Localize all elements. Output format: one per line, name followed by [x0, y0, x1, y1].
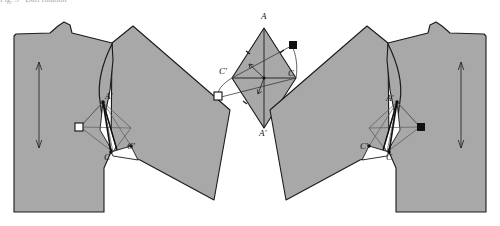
- left-bodice-shape: [14, 22, 113, 212]
- center-label-c-prime: C': [219, 67, 227, 76]
- left-white-square-marker: [75, 123, 83, 131]
- right-bodice-shape: [387, 22, 486, 212]
- center-pivot-dot: [263, 77, 266, 80]
- right-pattern-piece: [270, 22, 486, 212]
- left-pattern-piece: [14, 22, 230, 212]
- right-label-a-prime: A': [386, 94, 393, 103]
- pattern-drawing: [0, 0, 500, 226]
- center-label-a: A: [261, 12, 267, 21]
- right-black-square-marker: [417, 123, 425, 131]
- right-notch-dot-a: [395, 100, 399, 104]
- left-label-a-prime: A': [105, 92, 112, 101]
- center-label-c: C: [288, 69, 294, 78]
- left-sleeve-shape: [111, 26, 230, 200]
- right-label-c: C: [386, 153, 392, 162]
- center-black-square-marker: [289, 41, 297, 49]
- right-sleeve-shape: [270, 26, 389, 200]
- diagram-canvas: Fig. 5 · Dart rotation: [0, 0, 500, 226]
- left-label-c-prime: C': [127, 142, 135, 151]
- left-label-c: C: [104, 153, 110, 162]
- right-label-c-prime: C': [360, 142, 368, 151]
- center-label-a-prime: A': [259, 129, 266, 138]
- center-white-square-marker: [214, 92, 222, 100]
